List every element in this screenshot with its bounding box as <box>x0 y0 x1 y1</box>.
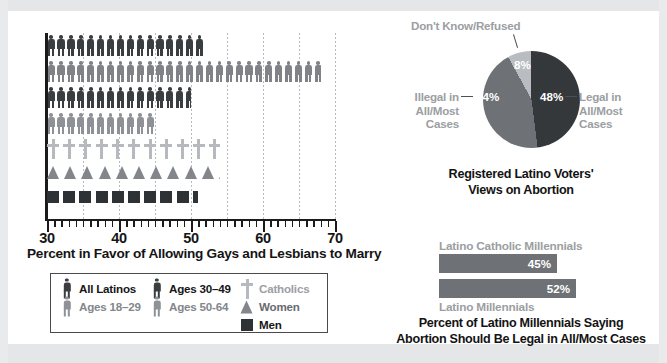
person-head <box>69 113 73 117</box>
cross-vbar <box>165 139 168 159</box>
person-legR <box>160 74 163 82</box>
legend-column-1: All LatinosAges 18–29 <box>59 280 141 316</box>
square-icon <box>112 191 124 203</box>
triangle-icon <box>116 166 129 179</box>
legend-item-ages-30-49: Ages 30–49 <box>149 280 231 297</box>
person-head <box>155 296 159 300</box>
cross-hbar <box>63 144 75 147</box>
person-icon <box>87 87 95 108</box>
person-legL <box>246 74 249 82</box>
person-icon <box>136 113 144 134</box>
left-margin-band <box>0 0 8 363</box>
person-legR <box>157 309 160 317</box>
person-legR <box>101 100 104 108</box>
person-legL <box>48 74 51 82</box>
person-legR <box>62 74 65 82</box>
cross-icon <box>209 139 220 159</box>
person-icon <box>185 35 193 56</box>
person-head <box>59 35 63 39</box>
cross-icon <box>128 139 140 159</box>
tick-46 <box>162 221 163 227</box>
person-legL <box>68 126 71 134</box>
person-icon <box>166 61 174 82</box>
person-legR <box>141 74 144 82</box>
person-icon <box>215 61 223 82</box>
person-icon <box>87 61 95 82</box>
person-legR <box>91 74 94 82</box>
person-icon <box>47 113 55 134</box>
person-head <box>227 61 231 65</box>
person-legR <box>230 74 233 82</box>
person-icon <box>176 87 184 108</box>
person-icon <box>47 35 55 56</box>
legend-item-women: Women <box>239 298 309 315</box>
person-legL <box>236 74 239 82</box>
cross-hbar <box>128 144 140 147</box>
person-legL <box>117 100 120 108</box>
cross-icon <box>144 139 156 159</box>
cross-icon <box>112 139 124 159</box>
person-head <box>188 35 192 39</box>
person-legR <box>170 100 173 108</box>
triangle-shape <box>185 166 197 179</box>
cross-vbar <box>52 139 55 159</box>
person-legL <box>206 74 209 82</box>
person-icon <box>185 87 191 108</box>
person-icon <box>156 87 164 108</box>
cross-hbar <box>209 144 220 147</box>
tick-63 <box>285 221 286 227</box>
person-legL <box>154 309 157 317</box>
square-shape <box>63 191 75 203</box>
cross-icon <box>241 279 253 299</box>
person-head <box>316 61 320 65</box>
person-icon <box>185 61 193 82</box>
person-head <box>148 61 152 65</box>
person-icon <box>126 61 134 82</box>
person-legR <box>151 48 154 56</box>
tick-label-70: 70 <box>327 230 343 246</box>
person-head <box>69 61 73 65</box>
square-shape <box>241 319 253 331</box>
triangle-shape <box>150 166 162 179</box>
person-head <box>79 87 83 91</box>
person-legL <box>137 126 140 134</box>
person-icon <box>225 61 233 82</box>
person-legL <box>107 100 110 108</box>
person-head <box>89 61 93 65</box>
person-head <box>155 278 159 282</box>
person-legR <box>52 126 55 134</box>
person-icon <box>136 61 144 82</box>
triangle-shape <box>167 166 179 179</box>
person-legL <box>97 74 100 82</box>
person-head <box>89 113 93 117</box>
person-legL <box>78 74 81 82</box>
cross-icon <box>193 139 205 159</box>
person-legL <box>58 74 61 82</box>
person-head <box>218 61 222 65</box>
person-legL <box>137 100 140 108</box>
person-head <box>267 61 271 65</box>
triangle-shape <box>133 166 145 179</box>
person-head <box>65 278 69 282</box>
person-icon <box>153 296 161 317</box>
person-legL <box>87 100 90 108</box>
cross-icon <box>239 280 255 297</box>
tick-label-60: 60 <box>255 230 271 246</box>
person-head <box>138 35 142 39</box>
cross-hbar <box>177 144 189 147</box>
person-legL <box>127 74 130 82</box>
person-legR <box>160 48 163 56</box>
person-icon <box>284 61 292 82</box>
person-legR <box>141 100 144 108</box>
triangle-icon <box>47 166 60 179</box>
person-head <box>138 87 142 91</box>
person-head <box>109 61 113 65</box>
person-legR <box>101 48 104 56</box>
legend-label: Men <box>259 318 282 331</box>
person-legL <box>58 126 61 134</box>
person-legR <box>111 100 114 108</box>
person-legR <box>71 100 74 108</box>
person-head <box>188 61 192 65</box>
person-legR <box>131 48 134 56</box>
legend-item-men: Men <box>239 316 309 333</box>
